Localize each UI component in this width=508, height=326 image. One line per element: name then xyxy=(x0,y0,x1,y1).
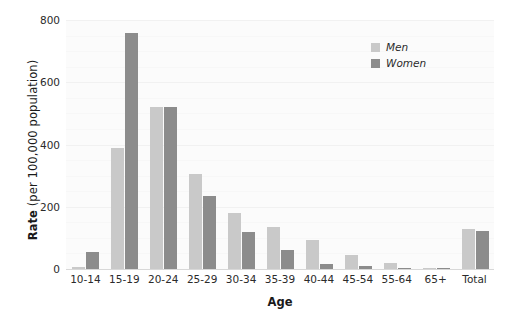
bar-men xyxy=(72,267,85,269)
legend-item-men: Men xyxy=(371,41,461,54)
bar-women xyxy=(476,231,489,269)
x-axis-title: Age xyxy=(66,295,494,309)
bar-group xyxy=(460,20,490,269)
legend-label: Men xyxy=(386,42,408,53)
x-axis-tick-label: 55-64 xyxy=(377,273,416,285)
bar-group xyxy=(187,20,217,269)
bar-men xyxy=(267,227,280,269)
x-axis-tick-label: 25-29 xyxy=(183,273,222,285)
legend-swatch-icon xyxy=(371,43,380,52)
bar-group xyxy=(109,20,139,269)
legend-label: Women xyxy=(386,58,426,69)
bar-group xyxy=(265,20,295,269)
x-axis-line xyxy=(66,269,494,270)
x-axis-tick-label: 15-19 xyxy=(105,273,144,285)
chart-legend: MenWomen xyxy=(371,41,461,73)
bar-women xyxy=(437,268,450,269)
x-axis-tick-label: Total xyxy=(455,273,494,285)
bar-men xyxy=(189,174,202,269)
bar-men xyxy=(462,229,475,269)
bar-women xyxy=(359,266,372,269)
bar-women xyxy=(320,264,333,269)
bar-men xyxy=(306,240,319,269)
x-axis-tick-labels: 10-1415-1920-2425-2930-3435-3940-4445-54… xyxy=(66,273,494,289)
legend-swatch-icon xyxy=(371,59,380,68)
x-axis-tick-label: 65+ xyxy=(416,273,455,285)
x-axis-tick-label: 20-24 xyxy=(144,273,183,285)
y-axis-tick-label: 400 xyxy=(32,140,60,151)
bar-men xyxy=(150,107,163,269)
x-axis-tick-label: 35-39 xyxy=(261,273,300,285)
bar-women xyxy=(281,250,294,269)
bar-women xyxy=(86,252,99,269)
legend-item-women: Women xyxy=(371,57,461,70)
bar-group xyxy=(70,20,100,269)
bar-women xyxy=(242,232,255,269)
x-axis-tick-label: 10-14 xyxy=(66,273,105,285)
bar-group xyxy=(343,20,373,269)
bar-women xyxy=(203,196,216,269)
chart-figure: Rate (per 100,000 population) 0200400600… xyxy=(0,0,508,326)
bar-women xyxy=(125,33,138,269)
y-axis-tick-labels: 0200400600800 xyxy=(20,0,60,326)
bar-group xyxy=(304,20,334,269)
bar-group xyxy=(148,20,178,269)
bar-men xyxy=(384,263,397,269)
x-axis-tick-label: 30-34 xyxy=(222,273,261,285)
bar-women xyxy=(164,107,177,269)
y-axis-tick-label: 800 xyxy=(32,15,60,26)
bar-women xyxy=(398,268,411,269)
bar-group xyxy=(226,20,256,269)
bar-men xyxy=(228,213,241,269)
y-axis-tick-label: 600 xyxy=(32,77,60,88)
x-axis-tick-label: 45-54 xyxy=(338,273,377,285)
y-axis-tick-label: 200 xyxy=(32,202,60,213)
bar-men xyxy=(345,255,358,269)
x-axis-tick-label: 40-44 xyxy=(299,273,338,285)
bar-men xyxy=(111,148,124,269)
bar-men xyxy=(423,268,436,269)
y-axis-tick-label: 0 xyxy=(32,264,60,275)
